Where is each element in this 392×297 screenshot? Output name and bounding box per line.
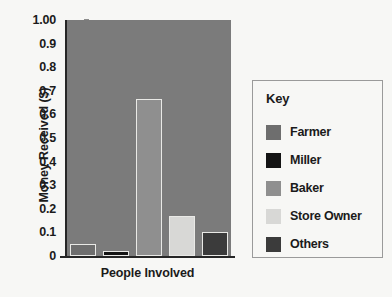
y-axis-tick-label: 0.1 [39,225,56,239]
y-axis-tick-label: 0.5 [39,131,56,145]
legend-item-store-owner: Store Owner [266,202,377,230]
legend-swatch-icon [266,153,281,168]
bar-chart-figure: Money Received ($) 00.10.20.30.40.50.60.… [0,0,245,297]
bar-others [202,232,228,256]
legend-item-label: Baker [290,181,324,195]
legend-item-label: Store Owner [290,209,362,223]
legend-item-miller: Miller [266,146,377,174]
legend-item-label: Miller [290,153,321,167]
bar-store-owner [169,216,195,256]
legend-item-label: Farmer [290,125,331,139]
x-axis-title: People Involved [60,266,235,280]
plot-area [66,20,231,256]
legend-item-farmer: Farmer [266,118,377,146]
legend-swatch-icon [266,181,281,196]
y-axis-tick-label: 0.7 [39,84,56,98]
legend-swatch-icon [266,209,281,224]
legend-items: FarmerMillerBakerStore OwnerOthers [266,118,377,258]
y-axis-tick-label: 0.2 [39,202,56,216]
legend-swatch-icon [266,125,281,140]
y-axis-tick-labels: 00.10.20.30.40.50.60.70.80.91.00 [24,20,60,256]
x-axis-line [60,256,235,258]
y-axis-tick-label: 0.3 [39,178,56,192]
y-axis-tick-label: 0.9 [39,37,56,51]
y-axis-tick-label: 0 [49,249,56,263]
legend-key-box: Key FarmerMillerBakerStore OwnerOthers [252,80,383,258]
bar-baker [136,99,162,256]
y-axis-tick-label: 0.4 [39,155,56,169]
legend-item-label: Others [290,237,329,251]
y-axis-tick-label: 1.00 [32,13,56,27]
legend-item-baker: Baker [266,174,377,202]
legend-item-others: Others [266,230,377,258]
bar-farmer [70,244,96,256]
y-axis-tick-label: 0.6 [39,107,56,121]
legend-title: Key [266,91,289,106]
y-axis-line [65,20,67,257]
legend-swatch-icon [266,237,281,252]
y-axis-tick-label: 0.8 [39,60,56,74]
